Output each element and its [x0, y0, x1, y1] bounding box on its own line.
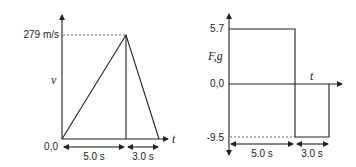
f-interval-1-label: 5.0 s [251, 148, 273, 159]
f-interval-2-label: 3.0 s [301, 148, 323, 159]
force-curve [229, 29, 329, 137]
t-axis-label-right: t [310, 69, 314, 83]
interval-1-label: 5.0 s [83, 151, 105, 162]
peak-label: 279 m/s [23, 29, 59, 40]
diagram-canvas: 279 m/s v t 0,0 5.0 s 3.0 s 5.7 F,g 0,0 … [0, 0, 356, 167]
velocity-curve [62, 35, 159, 139]
v-axis-label: v [51, 73, 57, 87]
origin-label-right: 0,0 [210, 78, 224, 89]
force-axis-label: F,g [207, 49, 223, 63]
origin-label: 0,0 [44, 141, 58, 152]
t-axis-label: t [172, 132, 176, 146]
lower-value-label: -9.5 [207, 132, 225, 143]
interval-2-label: 3.0 s [132, 151, 154, 162]
velocity-graph: 279 m/s v t 0,0 5.0 s 3.0 s [23, 15, 176, 162]
upper-value-label: 5.7 [210, 23, 224, 34]
force-graph: 5.7 F,g 0,0 t -9.5 5.0 s 3.0 s [207, 14, 342, 159]
